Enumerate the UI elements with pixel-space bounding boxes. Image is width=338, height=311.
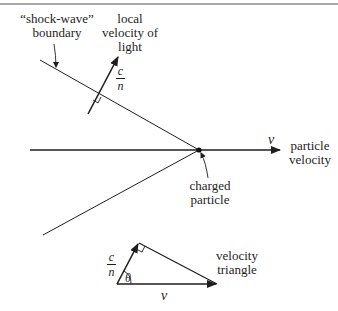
c-numerator: c <box>118 65 123 77</box>
velocity-triangle-label-line2: triangle <box>207 263 267 277</box>
local-velocity-of-light-label: local velocity of light <box>96 12 164 54</box>
c-over-n-fraction-top: c n <box>116 65 125 92</box>
shock-wave-label-line2: boundary <box>14 26 100 40</box>
light-velocity-arrow <box>88 57 118 114</box>
local-velocity-label-line2: velocity of <box>96 26 164 40</box>
particle-velocity-label-line2: velocity <box>284 153 336 167</box>
theta-label: θ <box>125 271 131 285</box>
charged-particle-dot <box>196 147 201 152</box>
triangle-n-denominator: n <box>109 266 115 278</box>
particle-velocity-label-line1: particle <box>284 139 336 153</box>
theta-symbol: θ <box>125 271 131 285</box>
boundary-pointer <box>54 44 56 67</box>
charged-particle-label: charged particle <box>182 179 238 207</box>
local-velocity-label-line3: light <box>96 40 164 54</box>
shock-wave-lower-line <box>43 150 199 235</box>
shock-wave-boundary-label: “shock-wave” boundary <box>14 12 100 40</box>
local-velocity-label-line1: local <box>96 12 164 26</box>
particle-velocity-label: particle velocity <box>284 139 336 167</box>
triangle-v-label: v <box>161 289 167 303</box>
charged-particle-label-line1: charged <box>182 179 238 193</box>
triangle-c-numerator: c <box>109 251 114 263</box>
charged-particle-label-line2: particle <box>182 193 238 207</box>
velocity-triangle-label: velocity triangle <box>207 249 267 277</box>
shock-wave-label-line1: “shock-wave” <box>14 12 100 26</box>
n-denominator: n <box>118 80 124 92</box>
v-symbol-label: v <box>268 133 274 147</box>
charged-particle-pointer <box>201 153 208 178</box>
v-symbol: v <box>268 132 274 147</box>
triangle-hypotenuse <box>139 243 217 284</box>
velocity-triangle-label-line1: velocity <box>207 249 267 263</box>
c-over-n-fraction-triangle: c n <box>107 251 116 278</box>
triangle-v-symbol: v <box>161 288 167 303</box>
